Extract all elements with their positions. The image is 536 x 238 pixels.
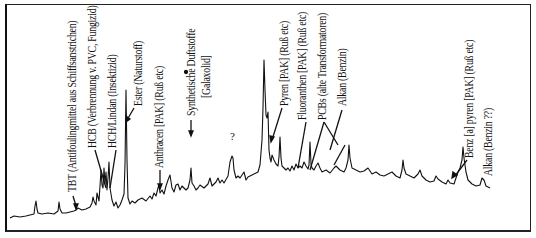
- pcbs-arrow-1: [310, 122, 324, 170]
- label-question: ?: [230, 130, 235, 142]
- label-galaxolid: [Galaxolid]: [200, 55, 212, 98]
- hch-arrow: [110, 150, 116, 188]
- label-alkan2: Alkan (Benzin ??): [482, 108, 494, 176]
- chromatogram-trace: [10, 60, 490, 218]
- label-duftstoffe: Synthetische Duftstoffe: [185, 29, 197, 116]
- label-benzapyren: Benz [a] pyren [PAK] (Ruß etc): [463, 40, 475, 158]
- label-anthracen: Anthracen [PAK] (Ruß etc): [153, 66, 165, 168]
- label-pcbs: PCBs (alte Transformatoren): [316, 13, 328, 120]
- alkan-arrow-1: [330, 110, 342, 150]
- pcbs-arrow-2: [324, 122, 338, 145]
- duftstoffe-arrowhead: [189, 131, 193, 136]
- label-hch: HCH/Lindan (Insektizid): [106, 54, 118, 148]
- label-fluoranthen: Fluoranthen [PAK] (Ruß etc): [296, 12, 308, 120]
- label-pyren: Pyren [PAK] (Ruß etc): [278, 21, 290, 106]
- label-alkan: Alkan (Benzin): [336, 49, 348, 106]
- alkan-arrow-2: [334, 145, 345, 165]
- label-tbt: TBT (Antifoulingmittel aus Schiffsanstri…: [66, 21, 78, 192]
- chromatogram-plot: [0, 0, 536, 238]
- pyren-arrow: [272, 108, 282, 140]
- label-ester: Ester (Naturstoff): [132, 41, 144, 106]
- anthracen-arrowhead: [158, 184, 162, 189]
- label-hcb: HCB (Verbrennung v. PVC, Fungizid): [86, 6, 98, 148]
- fluoranthen-arrow: [298, 122, 306, 168]
- pyren-arrowhead: [270, 136, 274, 142]
